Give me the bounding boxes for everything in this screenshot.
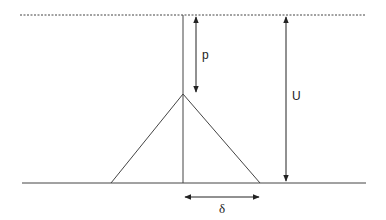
delta-label: δ xyxy=(219,203,225,215)
p-label: p xyxy=(202,49,209,61)
diagram-canvas: p U δ xyxy=(0,0,386,220)
u-label: U xyxy=(292,90,301,102)
diagram-svg xyxy=(0,0,386,220)
triangle-shape xyxy=(111,94,260,183)
